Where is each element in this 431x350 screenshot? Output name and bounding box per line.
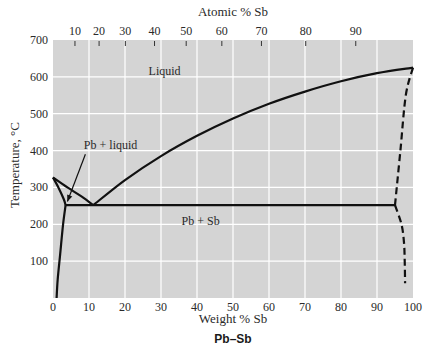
x-tick-label: 20 [119, 300, 131, 314]
y-tick-label: 600 [30, 70, 48, 84]
x-tick-label: 30 [155, 300, 167, 314]
x-tick-label: 70 [299, 300, 311, 314]
top-tick-label: 20 [93, 24, 105, 38]
chart-title: Pb–Sb [214, 332, 251, 346]
x-tick-label: 0 [50, 300, 56, 314]
y-tick-label: 400 [30, 144, 48, 158]
top-axis-label: Atomic % Sb [198, 4, 268, 19]
x-axis-label: Weight % Sb [199, 311, 267, 326]
y-tick-label: 200 [30, 217, 48, 231]
top-tick-label: 70 [255, 24, 267, 38]
top-tick-label: 80 [300, 24, 312, 38]
region-label: Pb + Sb [182, 214, 220, 228]
x-tick-label: 80 [335, 300, 347, 314]
y-tick-label: 700 [30, 33, 48, 47]
y-tick-label: 500 [30, 107, 48, 121]
top-tick-label: 90 [350, 24, 362, 38]
phase-diagram: 0102030405060708090100 10020030040050060… [0, 0, 431, 350]
region-label: Pb + liquid [84, 138, 137, 152]
x-tick-label: 10 [83, 300, 95, 314]
y-tick-label: 300 [30, 180, 48, 194]
top-tick-label: 50 [180, 24, 192, 38]
top-tick-label: 60 [216, 24, 228, 38]
y-axis-ticks: 100200300400500600700 [30, 33, 48, 268]
region-label: Liquid [149, 64, 181, 78]
top-tick-label: 10 [69, 24, 81, 38]
y-axis-label: Temperature, °C [7, 122, 22, 208]
x-tick-label: 100 [404, 300, 422, 314]
top-tick-label: 40 [149, 24, 161, 38]
x-tick-label: 90 [371, 300, 383, 314]
top-tick-label: 30 [119, 24, 131, 38]
y-tick-label: 100 [30, 254, 48, 268]
